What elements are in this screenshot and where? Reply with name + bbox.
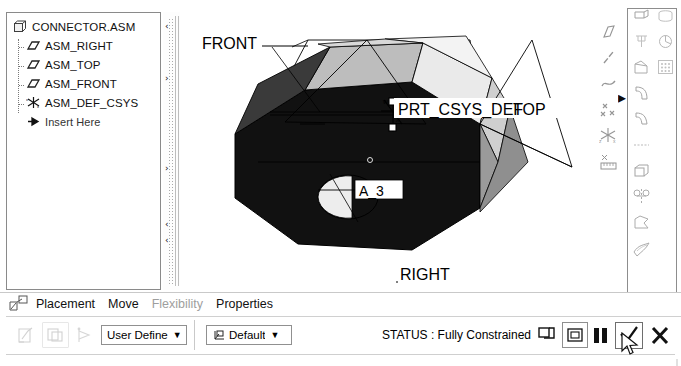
tree-item-asm-front[interactable]: ASM_FRONT <box>9 74 148 93</box>
tree-tick <box>19 104 24 106</box>
tree-item-asm-def-csys[interactable]: x x ASM_DEF_CSYS <box>9 93 148 112</box>
tree-item-insert-here[interactable]: Insert Here <box>9 112 148 131</box>
placement-reference-select[interactable]: Default ▼ <box>206 325 292 345</box>
datum-plane-icon <box>26 77 41 90</box>
tree-item-label: ASM_TOP <box>45 59 100 71</box>
datum-toolbar-column[interactable]: z x <box>596 18 620 174</box>
svg-text:x: x <box>613 138 616 144</box>
constraint-type-value: User Define <box>107 329 168 341</box>
constraint-type-select[interactable]: User Define ▼ <box>101 325 187 345</box>
coordinate-system-icon: x x <box>26 96 41 109</box>
splitter-line <box>175 16 176 286</box>
svg-text:x: x <box>26 97 28 102</box>
dashboard-divider <box>6 316 681 317</box>
splitter-collapse-up-icon[interactable]: ‹ <box>165 236 169 245</box>
datum-point-icon[interactable] <box>596 96 620 122</box>
feature-column-2[interactable] <box>653 2 677 80</box>
tab-move[interactable]: Move <box>108 297 139 311</box>
rib-icon[interactable] <box>629 132 653 158</box>
svg-text:x: x <box>37 104 39 109</box>
datum-plane-icon <box>26 39 41 52</box>
splitter-line <box>178 16 179 286</box>
tree-item-root-label: CONNECTOR.ASM <box>32 21 135 33</box>
window-display-icon[interactable] <box>536 323 560 347</box>
chevron-down-icon[interactable]: ▼ <box>270 330 279 340</box>
datum-curve-icon[interactable] <box>596 70 620 96</box>
status-badge: STATUS : Fully Constrained <box>382 328 531 342</box>
component-placement-dashboard: Placement Move Flexibility Properties <box>0 292 681 366</box>
cancel-x-button[interactable] <box>647 323 673 348</box>
coordinate-system-icon[interactable]: z x <box>596 122 620 148</box>
assembly-icon <box>13 20 28 33</box>
extrude-icon[interactable] <box>629 2 653 28</box>
tree-tick <box>19 47 24 49</box>
tab-flexibility: Flexibility <box>152 297 203 311</box>
dashboard-bottom-divider <box>6 354 675 355</box>
analysis-feature-icon[interactable] <box>596 148 620 174</box>
3d-model-viewport[interactable]: w ^ FRONT PRT_CSYS_DEF TOP A_3 RIGHT <box>180 12 626 290</box>
datum-axis-icon[interactable] <box>596 44 620 70</box>
feature-column-1[interactable] <box>629 2 653 262</box>
placement-reference-value: Default <box>229 329 265 341</box>
tab-properties[interactable]: Properties <box>216 297 273 311</box>
insert-arrow-icon <box>26 115 41 128</box>
tree-item-label: Insert Here <box>45 116 101 128</box>
dashboard-status-area: STATUS : Fully Constrained <box>382 322 681 349</box>
svg-text:w: w <box>382 98 389 105</box>
connection-preview-button[interactable] <box>72 323 97 347</box>
placement-dashboard-icon <box>8 294 32 314</box>
tree-item-root[interactable]: CONNECTOR.ASM <box>9 17 148 36</box>
flyout-arrow-icon[interactable]: ▸ <box>618 88 628 100</box>
revolve-icon[interactable] <box>629 28 653 54</box>
pattern-icon[interactable] <box>653 28 677 54</box>
csys-label-prt-csys-def: PRT_CSYS_DEF <box>398 101 523 119</box>
tree-tick <box>19 66 24 68</box>
dashboard-control-row: User Define ▼ Default ▼ STATUS : Fully C… <box>0 318 681 352</box>
splitter-collapse-up-icon[interactable]: ‹ <box>165 22 169 31</box>
tree-item-asm-top[interactable]: ASM_TOP <box>9 55 148 74</box>
shell-icon[interactable] <box>629 184 653 210</box>
resize-grip[interactable] <box>668 354 678 364</box>
draft-offset-icon[interactable] <box>629 210 653 236</box>
feature-toolbar[interactable]: z x ▸ <box>596 0 681 295</box>
sweep-icon[interactable] <box>629 54 653 80</box>
splitter-expand-down-icon[interactable]: › <box>165 74 169 83</box>
datum-label-top: TOP <box>513 101 546 118</box>
tree-item-label: ASM_RIGHT <box>45 40 113 52</box>
splitter-grip[interactable] <box>168 18 173 284</box>
splitter-expand-down-icon[interactable]: › <box>165 164 169 173</box>
chevron-down-icon[interactable]: ▼ <box>173 330 182 340</box>
panel-splitter[interactable]: ‹ › › ‹ ‹ <box>163 12 180 290</box>
round-icon[interactable] <box>629 80 653 106</box>
copy-placement-button[interactable] <box>42 322 69 348</box>
hole-icon[interactable] <box>653 2 677 28</box>
application-window: CONNECTOR.ASM ASM_RIGHT ASM_TOP <box>0 0 681 366</box>
pause-button[interactable] <box>594 328 607 343</box>
tree-connector-lines <box>18 39 20 113</box>
separate-window-icon[interactable] <box>562 322 588 348</box>
tree-tick <box>19 85 24 87</box>
chamfer-icon[interactable] <box>629 106 653 132</box>
datum-label-right: RIGHT <box>400 266 450 283</box>
control-divider <box>194 320 195 350</box>
datum-plane-icon <box>26 58 41 71</box>
user-defined-set-button[interactable] <box>14 323 39 347</box>
tree-item-label: ASM_FRONT <box>45 78 117 90</box>
tab-placement[interactable]: Placement <box>36 297 95 311</box>
datum-plane-icon[interactable] <box>596 18 620 44</box>
surface-icon[interactable] <box>629 236 653 262</box>
draft-icon[interactable] <box>629 158 653 184</box>
model-tree-list[interactable]: CONNECTOR.ASM ASM_RIGHT ASM_TOP <box>9 17 148 287</box>
dashboard-tab-bar[interactable]: Placement Move Flexibility Properties <box>8 293 286 315</box>
tree-item-asm-right[interactable]: ASM_RIGHT <box>9 36 148 55</box>
csys-small-icon <box>212 329 226 341</box>
tree-item-label: ASM_DEF_CSYS <box>45 97 138 109</box>
grid-pattern-icon[interactable] <box>653 54 677 80</box>
model-tree-scrollbar[interactable] <box>149 14 159 288</box>
splitter-collapse-up-icon[interactable]: ‹ <box>165 220 169 229</box>
accept-check-button[interactable] <box>615 322 643 349</box>
axis-label-a3: A_3 <box>359 183 384 199</box>
model-tree-panel[interactable]: CONNECTOR.ASM ASM_RIGHT ASM_TOP <box>6 12 161 290</box>
datum-label-front: FRONT <box>202 35 257 52</box>
